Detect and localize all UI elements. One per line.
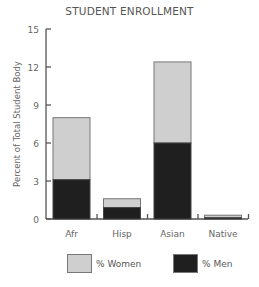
y-axis-label: Percent of Total Student Body bbox=[12, 61, 22, 187]
bar-men-afr bbox=[53, 180, 90, 219]
x-tick-label: Asian bbox=[160, 229, 185, 239]
x-tick-label: Afr bbox=[65, 229, 78, 239]
legend-women-swatch bbox=[67, 254, 92, 273]
x-tick-label: Native bbox=[208, 229, 238, 239]
y-tick-label: 9 bbox=[33, 101, 39, 111]
y-tick-label: 6 bbox=[33, 139, 39, 149]
y-tick-label: 0 bbox=[33, 215, 39, 225]
legend-men-label: % Men bbox=[202, 259, 232, 269]
x-tick-label: Hisp bbox=[112, 229, 132, 239]
bar-women-hisp bbox=[104, 199, 141, 208]
bar-men-hisp bbox=[104, 208, 141, 219]
y-tick-label: 12 bbox=[28, 63, 39, 73]
legend-women: % Women bbox=[67, 254, 141, 273]
bar-women-asian bbox=[154, 62, 191, 143]
y-tick-label: 15 bbox=[28, 25, 39, 35]
legend-women-label: % Women bbox=[96, 259, 141, 269]
bar-men-native bbox=[205, 218, 242, 219]
bar-women-afr bbox=[53, 118, 90, 180]
chart-plot-area: 03691215Percent of Total Student BodyAfr… bbox=[0, 0, 259, 287]
legend-men-swatch bbox=[173, 254, 198, 273]
legend-men: % Men bbox=[173, 254, 232, 273]
bar-men-asian bbox=[154, 143, 191, 219]
y-tick-label: 3 bbox=[33, 177, 39, 187]
